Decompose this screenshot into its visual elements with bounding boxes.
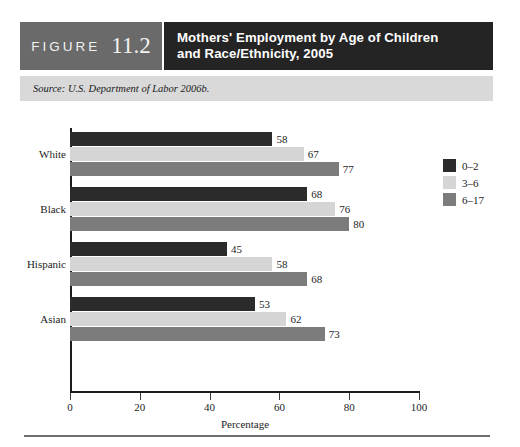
legend-item: 6–17 — [443, 192, 484, 207]
bar — [70, 202, 335, 216]
figure-header: FIGURE 11.2 Mothers' Employment by Age o… — [20, 22, 493, 70]
bar — [70, 162, 339, 176]
bar-value-label: 68 — [307, 272, 322, 286]
chart-legend: 0–23–66–17 — [443, 158, 484, 209]
legend-item: 0–2 — [443, 158, 484, 173]
bar — [70, 147, 304, 161]
bar-value-label: 67 — [304, 147, 319, 161]
x-tick — [210, 393, 211, 400]
x-tick-label: 40 — [204, 401, 215, 413]
figure-source-bar: Source: U.S. Department of Labor 2006b. — [20, 76, 493, 101]
x-tick — [349, 393, 350, 400]
x-tick-label: 100 — [411, 401, 428, 413]
legend-label: 0–2 — [462, 160, 479, 172]
x-tick — [70, 393, 71, 400]
bar-value-label: 77 — [339, 162, 354, 176]
legend-swatch — [443, 159, 456, 172]
bar-value-label: 76 — [335, 202, 350, 216]
bar — [70, 187, 307, 201]
category-label-black: Black — [8, 203, 66, 215]
x-axis-line — [70, 391, 420, 393]
x-tick — [279, 393, 280, 400]
figure-source-text: Source: U.S. Department of Labor 2006b. — [33, 83, 209, 94]
category-label-asian: Asian — [8, 313, 66, 325]
figure-title-line-1: Mothers' Employment by Age of Children — [177, 30, 493, 47]
x-axis-title: Percentage — [221, 418, 269, 430]
legend-swatch — [443, 176, 456, 189]
bar-value-label: 62 — [286, 312, 301, 326]
figure-number: 11.2 — [111, 33, 150, 59]
legend-label: 3–6 — [462, 177, 479, 189]
bar — [70, 272, 307, 286]
x-tick-label: 80 — [344, 401, 355, 413]
bar-value-label: 53 — [255, 297, 270, 311]
bar — [70, 327, 325, 341]
figure-page: FIGURE 11.2 Mothers' Employment by Age o… — [0, 0, 520, 447]
bottom-divider — [24, 435, 490, 437]
legend-item: 3–6 — [443, 175, 484, 190]
bar — [70, 312, 286, 326]
figure-title-block: Mothers' Employment by Age of Children a… — [164, 22, 493, 70]
legend-label: 6–17 — [462, 194, 484, 206]
category-label-hispanic: Hispanic — [8, 258, 66, 270]
figure-number-block: FIGURE 11.2 — [20, 22, 162, 70]
bar — [70, 242, 227, 256]
x-tick-label: 20 — [134, 401, 145, 413]
x-tick — [140, 393, 141, 400]
bar — [70, 257, 272, 271]
bar — [70, 132, 272, 146]
bar-value-label: 68 — [307, 187, 322, 201]
bar-value-label: 58 — [272, 257, 287, 271]
legend-swatch — [443, 193, 456, 206]
bar-value-label: 80 — [349, 217, 364, 231]
bar-value-label: 58 — [272, 132, 287, 146]
figure-title-line-2: and Race/Ethnicity, 2005 — [177, 46, 493, 63]
bar — [70, 297, 255, 311]
category-label-white: White — [8, 148, 66, 160]
bar-chart: 020406080100 586777687680455868536273 Wh… — [0, 110, 520, 420]
x-tick-label: 0 — [67, 401, 73, 413]
figure-label: FIGURE — [31, 39, 100, 54]
bar-value-label: 45 — [227, 242, 242, 256]
bar-value-label: 73 — [325, 327, 340, 341]
x-tick — [419, 393, 420, 400]
bar — [70, 217, 349, 231]
x-tick-label: 60 — [274, 401, 285, 413]
